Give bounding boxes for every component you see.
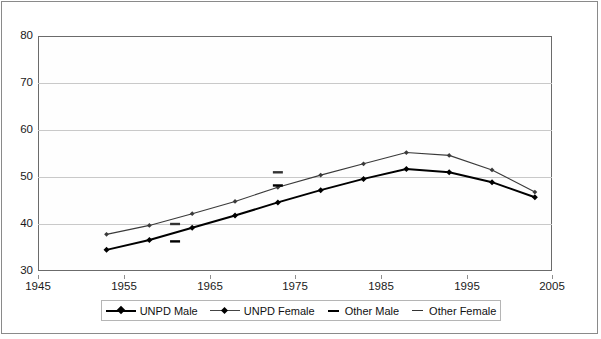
x-tickmark-1945 [38, 275, 39, 279]
series-group [104, 150, 538, 253]
legend-item-unpd-female: UNPD Female [210, 305, 315, 317]
data-point-marker [446, 169, 452, 175]
data-point-marker [190, 211, 195, 216]
x-tick-1985: 1985 [368, 281, 394, 293]
data-point-marker [532, 194, 538, 200]
data-point-marker [361, 161, 366, 166]
y-tick-80: 80 [3, 30, 33, 42]
data-point-marker [532, 190, 537, 195]
data-point-marker [275, 199, 281, 205]
y-tick-50: 50 [3, 171, 33, 183]
legend-key-dash-thin-icon [411, 305, 425, 316]
legend-key-dash-icon [327, 305, 341, 316]
x-tickmark-1965 [210, 275, 211, 279]
data-point-marker [233, 199, 238, 204]
series-other-female [170, 172, 283, 224]
x-tickmark-1975 [295, 275, 296, 279]
series-other-male [170, 185, 283, 241]
x-tickmark-1955 [124, 275, 125, 279]
y-tick-60: 60 [3, 124, 33, 136]
data-point-marker [318, 187, 324, 193]
x-tick-1965: 1965 [197, 281, 223, 293]
data-point-marker [447, 153, 452, 158]
legend-label-other-female: Other Female [429, 305, 496, 317]
legend-item-other-male: Other Male [327, 305, 399, 317]
data-point-marker [318, 173, 323, 178]
x-tickmark-1985 [381, 275, 382, 279]
chart-screenshot: 80 70 60 50 40 30 1945 1955 1965 1975 19… [0, 0, 601, 339]
legend-item-unpd-male: UNPD Male [106, 305, 198, 317]
x-tick-1945: 1945 [25, 281, 51, 293]
data-point-marker [146, 237, 152, 243]
y-tick-40: 40 [3, 218, 33, 230]
legend-label-other-male: Other Male [345, 305, 399, 317]
legend-label-unpd-female: UNPD Female [244, 305, 315, 317]
data-point-marker [104, 247, 110, 253]
series-svg-layer [38, 36, 552, 271]
legend-label-unpd-male: UNPD Male [140, 305, 198, 317]
legend-item-other-female: Other Female [411, 305, 496, 317]
data-point-marker [104, 232, 109, 237]
y-tick-70: 70 [3, 77, 33, 89]
series-unpd-female [104, 150, 537, 237]
chart-legend: UNPD Male UNPD Female Other Male Other F… [101, 300, 501, 321]
legend-key-line-diamond-thin-icon [210, 305, 240, 316]
series-unpd-male [104, 166, 538, 253]
data-point-marker [361, 176, 367, 182]
x-tick-1995: 1995 [454, 281, 480, 293]
x-tick-1955: 1955 [111, 281, 137, 293]
data-point-marker [489, 179, 495, 185]
x-tick-2005: 2005 [539, 281, 565, 293]
data-point-marker [403, 166, 409, 172]
legend-key-line-diamond-icon [106, 305, 136, 316]
plot-area [38, 36, 552, 271]
x-tickmark-1995 [467, 275, 468, 279]
x-axis-tick-labels: 1945 1955 1965 1975 1985 1995 2005 [0, 275, 601, 291]
x-tick-1975: 1975 [282, 281, 308, 293]
x-tickmark-2005 [552, 275, 553, 279]
series-line [107, 153, 535, 235]
data-point-marker [232, 213, 238, 219]
data-point-marker [189, 225, 195, 231]
series-line [107, 169, 535, 250]
y-axis-tick-labels: 80 70 60 50 40 30 [0, 36, 33, 271]
data-point-marker [147, 223, 152, 228]
data-point-marker [404, 150, 409, 155]
data-point-marker [490, 168, 495, 173]
